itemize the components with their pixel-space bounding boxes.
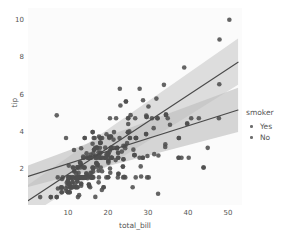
plot-panel — [28, 8, 242, 205]
legend-label-no: No — [260, 133, 270, 142]
x-tick-label: 10 — [55, 210, 81, 217]
legend-label-yes: Yes — [260, 122, 272, 131]
y-tick-label: 10 — [2, 17, 24, 24]
confidence-band-no — [28, 88, 238, 187]
legend-marker-yes — [246, 121, 257, 132]
x-tick-label: 50 — [215, 210, 241, 217]
x-tick-label: 20 — [95, 210, 121, 217]
y-axis-title: tip — [10, 83, 19, 123]
legend-item-no[interactable]: No — [246, 132, 286, 143]
x-axis-title: total_bill — [28, 221, 242, 230]
legend-item-yes[interactable]: Yes — [246, 121, 286, 132]
y-tick-label: 2 — [2, 166, 24, 173]
legend: smoker Yes No — [246, 108, 286, 143]
x-tick-label: 40 — [175, 210, 201, 217]
y-tick-label: 8 — [2, 54, 24, 61]
dot-icon — [250, 136, 253, 139]
x-tick-label: 30 — [135, 210, 161, 217]
scatter-plot-figure: 10 8 6 4 2 10 20 30 40 50 tip total_bill… — [0, 0, 286, 250]
y-tick-label: 4 — [2, 129, 24, 136]
dot-icon — [250, 125, 253, 128]
plot-canvas — [28, 8, 242, 205]
legend-title: smoker — [246, 108, 286, 117]
legend-marker-no — [246, 132, 257, 143]
